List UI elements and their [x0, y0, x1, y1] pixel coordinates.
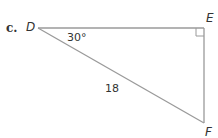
part-label: c.	[6, 21, 17, 35]
vertex-label-e: E	[206, 11, 214, 25]
side-df	[38, 28, 204, 123]
triangle-diagram: c. D E F 30° 18	[0, 0, 218, 138]
hypotenuse-length-label: 18	[105, 82, 119, 95]
angle-d-label: 30°	[67, 31, 87, 44]
vertex-label-d: D	[26, 20, 35, 34]
right-angle-marker	[196, 28, 204, 36]
vertex-label-f: F	[205, 125, 213, 138]
